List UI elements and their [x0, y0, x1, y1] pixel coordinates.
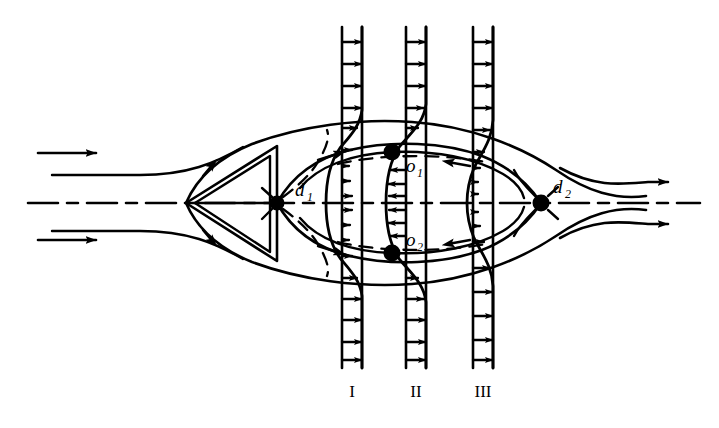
separatrix-d2-lower — [514, 210, 535, 236]
station-label-III: III — [475, 382, 492, 401]
label-d2: d — [553, 176, 563, 197]
inlet-streamline-upper — [52, 147, 243, 175]
station-I-velocity-envelope — [326, 27, 362, 368]
separatrix-d2-stub-lr — [548, 210, 558, 219]
saddle-d2-marker — [533, 195, 550, 212]
label-d1-subscript: 1 — [307, 190, 313, 204]
label-o2: o — [406, 229, 416, 250]
vortex-o2-marker — [384, 245, 401, 262]
station-label-I: I — [349, 382, 355, 401]
label-d2-subscript: 2 — [565, 187, 571, 201]
outer-shear-layer-upper — [186, 121, 646, 203]
label-o1-subscript: 1 — [417, 166, 423, 180]
label-o2-subscript: 2 — [417, 240, 423, 254]
diagram-canvas: d 1 d 2 o 1 o 2 I II III — [0, 0, 719, 428]
label-d1: d — [295, 179, 305, 200]
saddle-d1-marker — [270, 196, 285, 211]
station-I-group — [326, 27, 362, 368]
station-label-II: II — [410, 382, 422, 401]
station-II-group — [386, 27, 426, 368]
label-o1: o — [406, 155, 416, 176]
wake-flow-diagram: d 1 d 2 o 1 o 2 I II III — [0, 0, 719, 428]
separatrix-d2-upper — [514, 170, 535, 196]
inlet-streamline-lower — [52, 231, 243, 259]
separatrix-d1-lower — [283, 209, 328, 276]
inner-return-arrow-upper — [448, 162, 470, 166]
station-III-group — [467, 27, 493, 368]
inner-return-arrow-lower — [448, 240, 470, 244]
outer-shear-layer-lower — [186, 203, 646, 285]
vortex-o1-marker — [384, 144, 401, 161]
separatrix-d1-upper — [283, 130, 328, 197]
